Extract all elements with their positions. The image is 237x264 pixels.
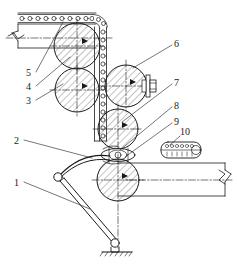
callout-label-6: 6 <box>174 39 179 49</box>
chain-link-detail <box>161 142 201 158</box>
diagram-canvas: 1 2 3 4 5 6 7 8 9 10 <box>0 0 237 264</box>
callout-label-8: 8 <box>174 101 179 111</box>
callout-label-7: 7 <box>174 78 179 88</box>
callout-label-5: 5 <box>26 68 31 78</box>
roller-bottom <box>92 154 144 248</box>
chain-belt-corner <box>94 15 108 29</box>
chain-rollers-horizontal <box>20 16 94 20</box>
callout-label-1: 1 <box>14 178 19 188</box>
callout-label-4: 4 <box>26 82 31 92</box>
leader-6 <box>133 45 172 68</box>
pivot-base <box>100 239 132 256</box>
break-line-symbol-right <box>219 170 225 184</box>
callout-label-2: 2 <box>14 136 19 146</box>
leader-2 <box>24 140 92 158</box>
callout-label-9: 9 <box>174 117 179 127</box>
roller-mid-left <box>50 64 104 116</box>
callout-label-10: 10 <box>180 127 190 137</box>
callout-label-3: 3 <box>26 96 31 106</box>
leader-1 <box>24 182 90 209</box>
technical-drawing-svg <box>0 0 237 264</box>
